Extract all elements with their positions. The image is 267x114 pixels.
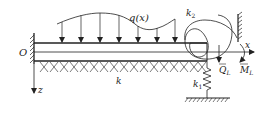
shear-force-label: QL — [219, 65, 230, 76]
origin-label: O — [19, 47, 27, 58]
z-axis-label: z — [37, 85, 43, 95]
load-label: q(x) — [129, 12, 149, 23]
ground-support — [185, 98, 230, 102]
distributed-load — [57, 13, 175, 42]
beam-diagram: x z O k — [0, 0, 267, 114]
moment-label: ML — [239, 65, 253, 76]
right-wall-support — [238, 12, 242, 42]
foundation-stiffness-label: k — [116, 76, 121, 86]
x-axis-label: x — [245, 40, 250, 50]
rotational-spring-label: k2 — [186, 8, 195, 19]
elastic-foundation — [40, 62, 206, 72]
moment-arrow — [240, 44, 245, 62]
rotational-spring — [185, 15, 237, 59]
left-wall-support — [30, 33, 34, 64]
translational-spring-label: k1 — [193, 79, 202, 90]
translational-spring — [203, 61, 211, 98]
